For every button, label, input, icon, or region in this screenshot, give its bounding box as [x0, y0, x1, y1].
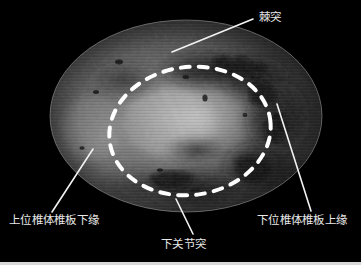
- annotation-label-lower-lamina-upper-margin: 下位椎体椎板上缘: [257, 214, 347, 227]
- endoscopic-figure: 棘突 上位椎体椎板下缘 下关节突 下位椎体椎板上缘: [0, 0, 361, 265]
- annotation-label-spinous-process: 棘突: [259, 11, 282, 24]
- annotation-label-inferior-articular-process: 下关节突: [161, 238, 206, 251]
- annotation-label-upper-lamina-lower-margin: 上位椎体椎板下缘: [9, 214, 99, 227]
